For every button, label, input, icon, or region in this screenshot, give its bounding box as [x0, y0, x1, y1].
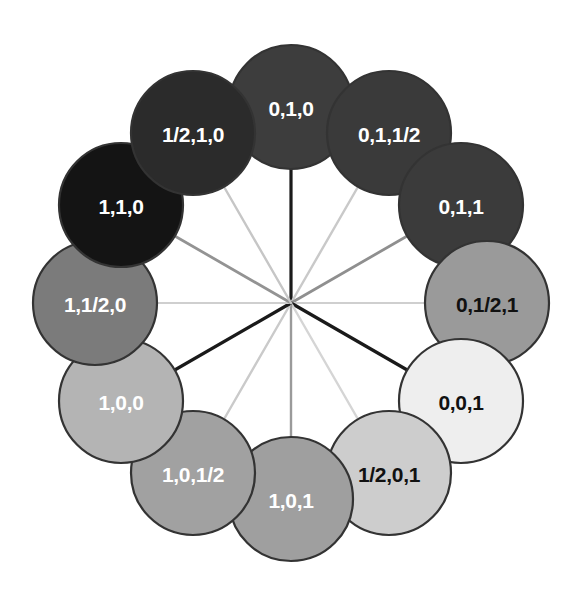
- diagram-canvas: 0,1,00,1,1/20,1,10,1/2,10,0,11/2,0,11,0,…: [0, 0, 580, 589]
- node-label: 0,0,1: [438, 391, 484, 414]
- node-label: 1,1/2,0: [64, 293, 126, 316]
- node-label: 1,0,1: [268, 489, 314, 512]
- node-label: 1/2,1,0: [162, 123, 224, 146]
- node-label: 1,0,0: [98, 391, 143, 414]
- node-label: 1/2,0,1: [358, 463, 421, 486]
- node-label: 0,1,0: [268, 97, 313, 120]
- node-label: 0,1,1/2: [358, 123, 420, 146]
- node-label: 1,0,1/2: [162, 463, 224, 486]
- node-n-half-1-0[interactable]: 1/2,1,0: [131, 71, 255, 195]
- color-wheel-svg: 0,1,00,1,1/20,1,10,1/2,10,0,11/2,0,11,0,…: [0, 0, 580, 589]
- node-label: 0,1/2,1: [456, 293, 519, 316]
- node-label: 0,1,1: [438, 195, 484, 218]
- node-label: 1,1,0: [98, 195, 143, 218]
